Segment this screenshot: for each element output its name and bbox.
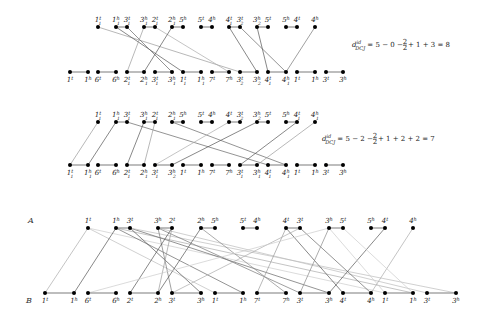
bottom-extremity-label: 7t — [209, 168, 216, 178]
top-extremity-node — [227, 25, 231, 29]
genome-edge — [98, 27, 240, 72]
top-extremity-label: 3t2 — [237, 15, 244, 26]
top-extremity-label: 5h — [179, 110, 187, 120]
bottom-extremity-node — [68, 163, 72, 167]
bottom-extremity-node — [114, 291, 118, 295]
top-extremity-node — [266, 120, 270, 124]
top-extremity-label: 4h1 — [310, 110, 319, 121]
top-extremity-node — [142, 120, 146, 124]
bottom-extremity-label: 2h — [153, 296, 162, 306]
top-extremity-label: 3t — [297, 216, 304, 226]
top-extremity-node — [156, 226, 160, 230]
top-extremity-node — [125, 120, 129, 124]
bottom-extremity-label: 3t — [323, 75, 330, 85]
bottom-extremity-node — [411, 291, 415, 295]
top-extremity-node — [86, 226, 90, 230]
top-extremity-label: 1t1 — [95, 110, 102, 121]
bottom-extremity-label: 6t — [95, 168, 102, 178]
bottom-extremity-node — [181, 163, 185, 167]
top-extremity-node — [114, 226, 118, 230]
top-extremity-label: 4h — [207, 110, 216, 120]
genome-edge — [127, 27, 144, 72]
bottom-extremity-label: 3t — [323, 168, 330, 178]
genome-edge — [300, 228, 329, 293]
bottom-extremity-label: 3h — [339, 168, 347, 178]
bottom-extremity-label: 1t — [180, 168, 187, 178]
bottom-extremity-node — [86, 163, 90, 167]
genome-edge — [70, 122, 98, 165]
top-extremity-label: 3t1 — [124, 110, 131, 121]
top-extremity-label: 4t1 — [293, 110, 301, 121]
top-extremity-node — [181, 120, 185, 124]
breakpoint-diagram-2: 1t11h13t13h12t12h15h5t4h4t3t23h25t5h4t14… — [67, 110, 435, 179]
formula-tail: + 1 + 3 = 8 — [408, 41, 450, 49]
bottom-extremity-node — [96, 70, 100, 74]
top-extremity-node — [170, 25, 174, 29]
top-extremity-node — [295, 25, 299, 29]
bottom-extremity-node — [266, 163, 270, 167]
top-extremity-label: 4t — [225, 110, 233, 120]
bottom-extremity-node — [142, 70, 146, 74]
top-extremity-node — [153, 25, 157, 29]
bottom-extremity-node — [284, 70, 288, 74]
top-extremity-node — [114, 25, 118, 29]
bottom-extremity-label: 1h1 — [84, 168, 92, 179]
bottom-extremity-node — [125, 163, 129, 167]
genome-edge — [144, 27, 172, 72]
bottom-extremity-node — [341, 291, 345, 295]
bottom-extremity-node — [324, 70, 328, 74]
top-extremity-label: 2t — [168, 216, 176, 226]
top-extremity-node — [266, 25, 270, 29]
top-extremity-node — [411, 226, 415, 230]
bottom-extremity-label: 3h1 — [253, 168, 261, 179]
bottom-extremity-node — [255, 291, 259, 295]
bottom-extremity-label: 1t — [294, 75, 301, 85]
bottom-extremity-label: 6t — [85, 296, 92, 306]
adjacency-graph: 1t1h3t3h2t2h5h5t4h4t3t3h5t5h4t4h1t1h6t6h… — [25, 216, 460, 306]
bottom-extremity-label: 1h — [311, 168, 319, 178]
bottom-extremity-node — [324, 163, 328, 167]
genome-edge — [286, 27, 315, 72]
bottom-extremity-label: 1t1 — [67, 168, 74, 179]
bottom-extremity-node — [227, 163, 231, 167]
top-extremity-label: 3h1 — [140, 110, 148, 121]
bottom-extremity-label: 3t1 — [237, 168, 244, 179]
top-extremity-node — [170, 226, 174, 230]
bottom-extremity-node — [213, 291, 217, 295]
top-extremity-label: 5h — [179, 15, 187, 25]
bottom-extremity-node — [86, 70, 90, 74]
top-extremity-label: 5t — [198, 110, 205, 120]
top-extremity-node — [213, 226, 217, 230]
diagram-canvas: 1t11h13t13h12t12h15h5t4h4t13t23h25t5h4t4… — [0, 0, 483, 323]
bottom-extremity-node — [156, 291, 160, 295]
bottom-extremity-label: 2t — [126, 296, 134, 306]
bottom-extremity-label: 3h2 — [253, 75, 261, 86]
bottom-extremity-node — [284, 291, 288, 295]
bottom-extremity-node — [298, 291, 302, 295]
top-extremity-node — [255, 226, 259, 230]
bottom-extremity-node — [227, 70, 231, 74]
bottom-extremity-node — [341, 163, 345, 167]
genome-edge — [45, 228, 88, 293]
dcj-distance-formula: didDCJ = 5 − 0 − — [352, 39, 403, 52]
bottom-extremity-label: 7h — [225, 75, 233, 85]
bottom-extremity-label: 4t — [339, 296, 347, 306]
bottom-extremity-label: 2t1 — [123, 75, 131, 86]
bottom-extremity-node — [210, 70, 214, 74]
genome-b-label: B — [25, 296, 32, 305]
bottom-extremity-label: 6t — [95, 75, 102, 85]
bottom-extremity-node — [125, 70, 129, 74]
bottom-extremity-label: 3t2 — [237, 75, 244, 86]
top-extremity-node — [313, 25, 317, 29]
top-extremity-label: 1t — [85, 216, 92, 226]
bottom-extremity-label: 3h2 — [168, 168, 176, 179]
bottom-extremity-node — [128, 291, 132, 295]
top-extremity-label: 5t — [340, 216, 347, 226]
bottom-extremity-label: 1t — [382, 296, 389, 306]
bottom-extremity-node — [86, 291, 90, 295]
genome-edge — [172, 228, 300, 293]
bottom-extremity-node — [43, 291, 47, 295]
bottom-extremity-node — [96, 163, 100, 167]
bottom-extremity-node — [313, 163, 317, 167]
top-extremity-label: 5h — [282, 15, 290, 25]
